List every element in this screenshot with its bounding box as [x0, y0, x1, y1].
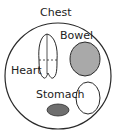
bowel-ellipse [70, 42, 100, 76]
heart-label: Heart [11, 64, 42, 77]
bowel-label: Bowel [60, 29, 93, 42]
stomach-ellipse [47, 104, 69, 116]
chest-label: Chest [40, 6, 72, 19]
stomach-label: Stomach [36, 88, 85, 101]
chest-diagram: Chest Bowel Heart Stomach [0, 0, 119, 134]
